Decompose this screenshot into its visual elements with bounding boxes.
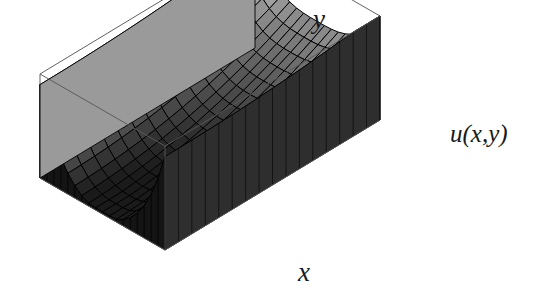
- axis-label-y: y: [313, 2, 325, 36]
- axis-label-x: x: [298, 255, 310, 289]
- axis-label-u: u(x,y): [450, 118, 508, 150]
- surface-mesh: [40, 0, 380, 250]
- surface-plot-figure: y x u(x,y): [0, 0, 548, 296]
